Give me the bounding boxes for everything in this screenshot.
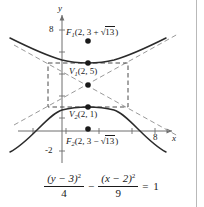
label-focus-1: F1(2, 3 + √13) xyxy=(66,28,118,38)
numerator-x-exponent: 2 xyxy=(132,172,135,179)
x-axis xyxy=(18,128,172,134)
fraction-y-term: (y − 3)2 4 xyxy=(44,173,84,199)
focus-2-close-paren: ) xyxy=(115,136,118,146)
numerator-y-exponent: 2 xyxy=(78,172,81,179)
x-tick-label-8: 8 xyxy=(153,133,158,142)
point-vertex-1 xyxy=(85,60,91,66)
hyperbola-figure: 8 -2 8 y x F1(2, 3 + √13) V1(2, 5) V2(2,… xyxy=(0,0,204,207)
y-axis xyxy=(59,15,65,163)
label-vertex-2: V2(2, 1) xyxy=(69,110,97,120)
x-axis-name: x xyxy=(172,134,176,143)
vertex-1-coords: (2, 5) xyxy=(78,66,98,76)
focus-2-coords: (2, 3 − xyxy=(75,136,101,146)
y-tick-label-8: 8 xyxy=(49,25,54,34)
asymptotes xyxy=(14,34,178,136)
y-axis-name: y xyxy=(58,4,62,13)
numerator-y: (y − 3)2 xyxy=(44,173,84,186)
image-right-border xyxy=(196,0,197,207)
point-focus-2 xyxy=(85,126,91,132)
equation-minus-operator: − xyxy=(87,180,95,192)
focus-2-radicand: 13 xyxy=(105,135,115,146)
denominator-x: 9 xyxy=(112,187,124,200)
numerator-y-text: (y − 3) xyxy=(47,172,78,184)
numerator-x-text: (x − 2) xyxy=(101,172,132,184)
equation-rhs: 1 xyxy=(152,180,160,192)
point-focus-1 xyxy=(85,38,91,44)
focus-1-radicand: 13 xyxy=(105,26,115,37)
label-focus-2: F2(2, 3 − √13) xyxy=(66,137,118,147)
focus-1-coords: (2, 3 + xyxy=(75,27,101,37)
equals-sign: = xyxy=(141,180,149,192)
label-vertex-1: V1(2, 5) xyxy=(69,67,97,77)
fraction-x-term: (x − 2)2 9 xyxy=(98,173,138,199)
focus-1-close-paren: ) xyxy=(115,27,118,37)
hyperbola-equation: (y − 3)2 4 − (x − 2)2 9 = 1 xyxy=(0,172,204,199)
numerator-x: (x − 2)2 xyxy=(98,173,138,186)
y-tick-label-minus-2: -2 xyxy=(45,146,53,155)
vertex-2-coords: (2, 1) xyxy=(78,109,98,119)
point-center xyxy=(85,82,91,88)
denominator-y: 4 xyxy=(58,187,70,200)
equation-row: (y − 3)2 4 − (x − 2)2 9 = 1 xyxy=(44,173,160,199)
